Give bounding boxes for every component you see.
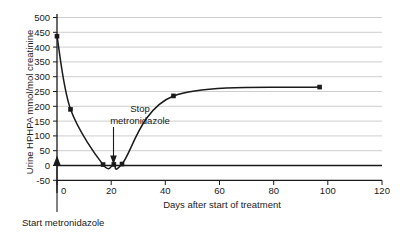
stop-metronidazole-line2: metronidazole <box>110 115 170 126</box>
gridlines <box>57 18 382 151</box>
ytick-label-50: 50 <box>39 145 50 156</box>
data-point-6 <box>318 85 322 89</box>
data-point-1 <box>69 107 73 111</box>
y-axis-title: Urine HPHPA mmol/mol creatinine <box>24 30 35 174</box>
data-point-2 <box>101 163 105 167</box>
start-metronidazole-arrowhead-icon <box>53 156 60 166</box>
data-curve <box>57 36 320 169</box>
ytick-label-500: 500 <box>34 12 50 23</box>
ytick-label-300: 300 <box>34 71 50 82</box>
ytick-label-350: 350 <box>34 56 50 67</box>
y-axis-tick-labels: 500 450 400 350 300 250 200 150 100 50 0… <box>34 12 50 186</box>
xtick-label-60: 60 <box>214 185 225 196</box>
xtick-label-20: 20 <box>106 185 117 196</box>
xtick-label-40: 40 <box>160 185 171 196</box>
data-point-0 <box>55 34 59 38</box>
ytick-label-150: 150 <box>34 116 50 127</box>
ytick-label-100: 100 <box>34 130 50 141</box>
xtick-label-120: 120 <box>374 185 390 196</box>
ytick-label-200: 200 <box>34 101 50 112</box>
ytick-label-0: 0 <box>45 160 50 171</box>
data-point-5 <box>171 94 175 98</box>
x-axis-tick-labels: 0 20 40 60 80 100 120 <box>61 185 390 196</box>
xtick-label-100: 100 <box>320 185 336 196</box>
ytick-label-minus50: -50 <box>36 175 50 186</box>
ytick-label-250: 250 <box>34 86 50 97</box>
ytick-label-450: 450 <box>34 27 50 38</box>
x-axis-title: Days after start of treatment <box>163 199 281 210</box>
chart-figure: 500 450 400 350 300 250 200 150 100 50 0… <box>0 0 407 238</box>
ytick-label-400: 400 <box>34 42 50 53</box>
data-markers <box>55 34 322 166</box>
start-metronidazole-label: Start metronidazole <box>22 217 104 228</box>
xtick-label-80: 80 <box>268 185 279 196</box>
data-point-4 <box>120 162 124 166</box>
stop-metronidazole-annotation: Stop metronidazole <box>110 103 170 165</box>
chart-svg: 500 450 400 350 300 250 200 150 100 50 0… <box>0 0 407 238</box>
xtick-label-0: 0 <box>61 185 66 196</box>
stop-metronidazole-line1: Stop <box>130 103 150 114</box>
